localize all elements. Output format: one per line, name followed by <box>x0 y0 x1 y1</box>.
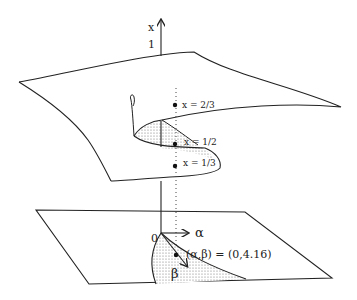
beta-label: β <box>171 266 179 281</box>
point-label-x-1-2: x = 1/2 <box>184 137 217 147</box>
control-plane <box>36 210 332 284</box>
equilibrium-surface <box>19 52 341 181</box>
control-point: (α,β) = (0,4.16) <box>174 248 272 261</box>
x-axis-label: x <box>148 21 155 34</box>
point-label-x-2-3: x = 2/3 <box>182 100 215 110</box>
point-marker <box>173 142 177 146</box>
point-label-x-1-3: x = 1/3 <box>183 158 216 168</box>
control-point-label: (α,β) = (0,4.16) <box>186 248 272 261</box>
x-axis: x 1 <box>148 20 161 56</box>
origin-label: 0 <box>151 232 158 245</box>
alpha-label: α <box>195 225 204 240</box>
point-marker <box>173 103 177 107</box>
control-point-marker <box>174 253 178 257</box>
point-marker <box>173 164 177 168</box>
cusp-catastrophe-diagram: x 1 x = 2/3 x = 1/2 x = 1/3 <box>0 0 357 300</box>
x-axis-tick-1: 1 <box>148 38 155 51</box>
